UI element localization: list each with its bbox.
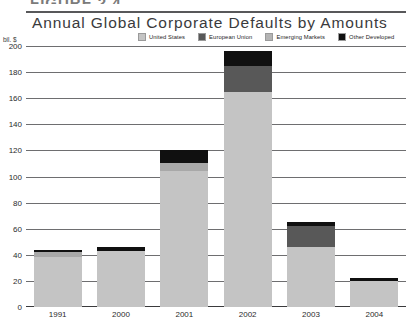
chart-page: FIGURE 2.4 Annual Global Corporate Defau… [0, 0, 412, 324]
y-axis-tick-label: 120 [9, 146, 22, 155]
y-axis-tick-label: 100 [9, 172, 22, 181]
legend-swatch-icon [265, 33, 273, 41]
y-axis-tick-label: 80 [13, 198, 22, 207]
bar-segment [350, 281, 398, 307]
plot-area: 020406080100120140160180200 [26, 46, 406, 307]
bar-segment [224, 51, 272, 65]
bar-segment [287, 247, 335, 307]
chart-legend: United StatesEuropean UnionEmerging Mark… [138, 33, 394, 41]
bar-stack [160, 150, 208, 307]
legend-label: European Union [209, 34, 252, 40]
legend-label: United States [149, 34, 185, 40]
legend-item: United States [138, 33, 185, 41]
y-axis-tick-label: 200 [9, 42, 22, 51]
bar-stack [350, 278, 398, 307]
x-axis-tick-label: 2001 [175, 310, 193, 319]
page-title: Annual Global Corporate Defaults by Amou… [32, 14, 388, 32]
bar-segment [287, 226, 335, 247]
x-axis-tick-label: 2000 [112, 310, 130, 319]
legend-swatch-icon [338, 33, 346, 41]
bar-segment [34, 257, 82, 307]
x-axis-tick-label: 2003 [302, 310, 320, 319]
figure-number-label: FIGURE 2.4 [30, 0, 122, 4]
bar-segment [160, 163, 208, 171]
y-axis-tick-label: 20 [13, 276, 22, 285]
legend-label: Emerging Markets [276, 34, 325, 40]
legend-item: Emerging Markets [265, 33, 325, 41]
bar-segment [224, 66, 272, 92]
legend-label: Other Developed [349, 34, 394, 40]
bar-segment [97, 251, 145, 307]
bar-stack [224, 51, 272, 307]
header-divider [26, 11, 406, 13]
legend-item: Other Developed [338, 33, 394, 41]
bar-stack [34, 250, 82, 307]
x-axis-tick-label: 2002 [239, 310, 257, 319]
bar-stack [287, 222, 335, 307]
bar-segment [224, 92, 272, 307]
x-axis-labels: 199120002001200220032004 [26, 310, 406, 324]
y-axis-tick-label: 180 [9, 68, 22, 77]
legend-item: European Union [198, 33, 252, 41]
bar-series-container [26, 46, 406, 307]
y-axis-tick-label: 40 [13, 250, 22, 259]
x-axis-tick-label: 2004 [365, 310, 383, 319]
legend-swatch-icon [198, 33, 206, 41]
y-axis-tick-label: 0 [18, 303, 22, 312]
y-axis-tick-label: 160 [9, 94, 22, 103]
x-axis-tick-label: 1991 [49, 310, 67, 319]
legend-swatch-icon [138, 33, 146, 41]
bar-segment [160, 150, 208, 163]
bar-segment [160, 171, 208, 307]
y-axis-tick-label: 140 [9, 120, 22, 129]
y-axis-tick-label: 60 [13, 224, 22, 233]
bar-stack [97, 247, 145, 307]
